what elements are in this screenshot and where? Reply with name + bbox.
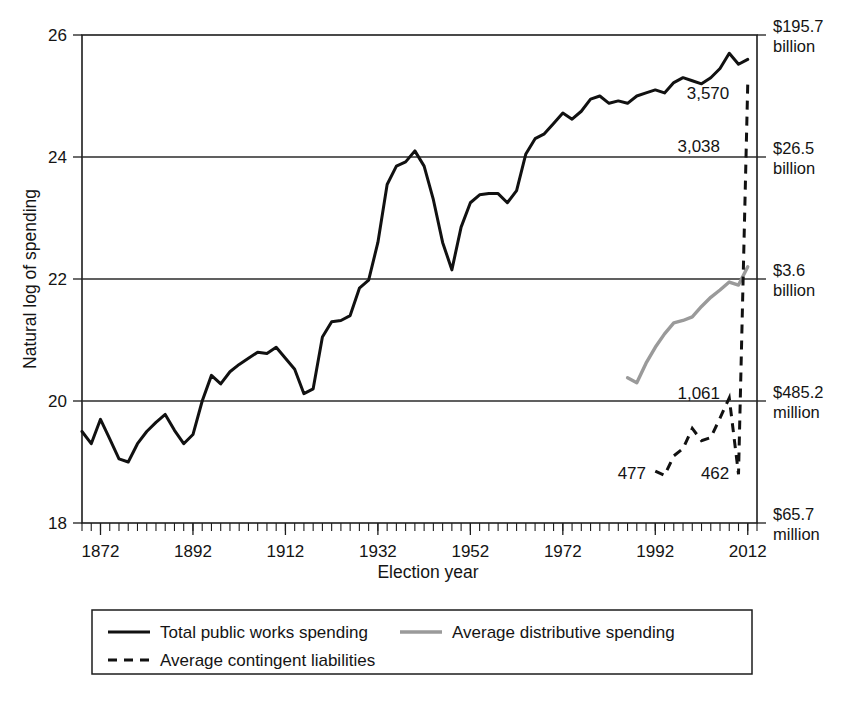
x-tick-label-1972: 1972	[544, 542, 582, 561]
y-tick-label-18: 18	[48, 514, 67, 533]
annotation-462: 462	[701, 464, 729, 483]
right-tick-value-24: $26.5	[773, 139, 814, 157]
line-chart-svg: 1820222426 18721892191219321952197219922…	[0, 0, 853, 702]
x-tick-label-1952: 1952	[451, 542, 489, 561]
x-tick-label-1932: 1932	[359, 542, 397, 561]
right-tick-unit-22: billion	[773, 281, 815, 299]
x-tick-label-1992: 1992	[636, 542, 674, 561]
x-tick-label-1892: 1892	[174, 542, 212, 561]
right-tick-value-20: $485.2	[773, 383, 823, 401]
right-tick-value-18: $65.7	[773, 505, 814, 523]
y-tick-label-26: 26	[48, 26, 67, 45]
x-tick-label-1912: 1912	[267, 542, 305, 561]
annotation-3038: 3,038	[677, 137, 720, 156]
y-tick-label-22: 22	[48, 270, 67, 289]
data-annotations: 3,5703,0381,061477462	[618, 84, 730, 483]
right-tick-unit-24: billion	[773, 159, 815, 177]
annotation-477: 477	[618, 464, 646, 483]
gridlines	[82, 157, 757, 401]
chart-figure: 1820222426 18721892191219321952197219922…	[0, 0, 853, 702]
y-axis-ticks: 1820222426	[48, 26, 82, 533]
y-tick-label-20: 20	[48, 392, 67, 411]
right-tick-value-22: $3.6	[773, 261, 805, 279]
right-tick-unit-18: million	[773, 525, 820, 543]
legend-label-3: Average contingent liabilities	[160, 651, 375, 670]
annotation-1061: 1,061	[677, 384, 720, 403]
chart-legend: Total public works spendingAverage distr…	[92, 610, 752, 674]
x-axis-title: Election year	[377, 562, 478, 582]
right-tick-unit-20: million	[773, 403, 820, 421]
annotation-3570: 3,570	[687, 84, 730, 103]
y-axis-title: Natural log of spending	[20, 189, 40, 369]
series-line-average-distributive-spending	[628, 267, 748, 383]
legend-label-2: Average distributive spending	[452, 623, 675, 642]
legend-label-1: Total public works spending	[160, 623, 368, 642]
x-tick-label-2012: 2012	[729, 542, 767, 561]
right-axis-ticks: $195.7billion$26.5billion$3.6billion$485…	[757, 17, 823, 543]
right-tick-value-26: $195.7	[773, 17, 823, 35]
y-tick-label-24: 24	[48, 148, 67, 167]
x-tick-label-1872: 1872	[82, 542, 120, 561]
right-tick-unit-26: billion	[773, 37, 815, 55]
data-series-layer	[82, 53, 748, 475]
